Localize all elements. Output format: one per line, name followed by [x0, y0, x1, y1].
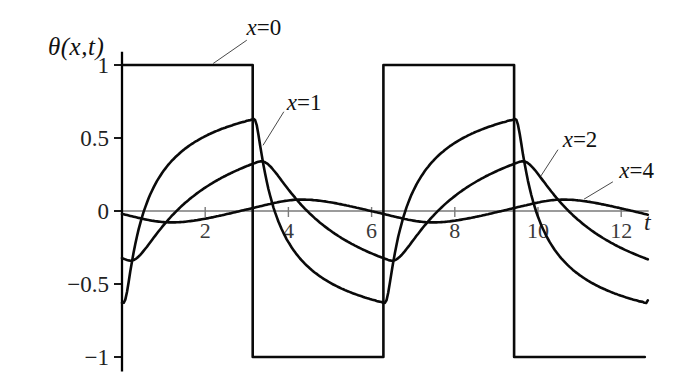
x-tick-label: 10	[527, 218, 549, 243]
curve-label-x1: x=1	[286, 90, 322, 115]
heat-conduction-figure: 2468101210.50−0.5−1x=0x=1x=2x=4 θ(x,t) t	[0, 0, 685, 385]
annotation-leader-line	[213, 40, 247, 63]
y-tick-label: 0.5	[80, 126, 109, 151]
x-tick-label: 6	[366, 218, 377, 243]
y-axis-title: θ(x,t)	[48, 33, 104, 61]
annotation-leader-line	[263, 112, 284, 146]
x-tick-label: 2	[200, 218, 211, 243]
curve-label-x2: x=2	[562, 127, 598, 152]
annotation-leader-line	[584, 182, 613, 200]
x-tick-label: 4	[283, 218, 294, 243]
y-tick-label: −1	[85, 345, 109, 370]
y-tick-label: −0.5	[67, 272, 109, 297]
y-tick-label: 0	[98, 199, 110, 224]
curve-label-x4: x=4	[618, 158, 654, 183]
x-tick-label: 12	[610, 218, 632, 243]
x-axis-title: t	[644, 209, 651, 236]
annotation-leader-line	[541, 150, 558, 176]
curve-label-x0: x=0	[246, 15, 282, 40]
